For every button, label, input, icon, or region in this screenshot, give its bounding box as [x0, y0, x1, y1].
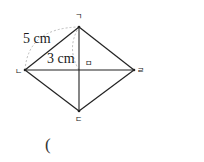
half-diagonal-label: 3 cm	[47, 51, 75, 66]
vertex-label-left: ㄴ	[15, 67, 22, 76]
vertex-dot	[78, 110, 81, 113]
edge-bottom-right	[79, 70, 134, 111]
vertex-dot	[24, 69, 27, 72]
side-length-label: 5 cm	[23, 31, 51, 46]
answer-paren: (	[45, 135, 51, 154]
vertex-label-bottom: ㄷ	[75, 115, 82, 124]
vertex-label-right: ㄹ	[137, 66, 144, 75]
vertex-dot	[133, 69, 136, 72]
vertex-dot	[78, 26, 81, 29]
vertex-label-center: ㅁ	[85, 59, 92, 68]
rhombus-diagram: ㄱ ㄴ ㄹ ㄷ ㅁ 5 cm 3 cm (	[0, 0, 204, 162]
edge-bottom-left	[25, 70, 79, 111]
vertex-label-top: ㄱ	[75, 12, 82, 21]
